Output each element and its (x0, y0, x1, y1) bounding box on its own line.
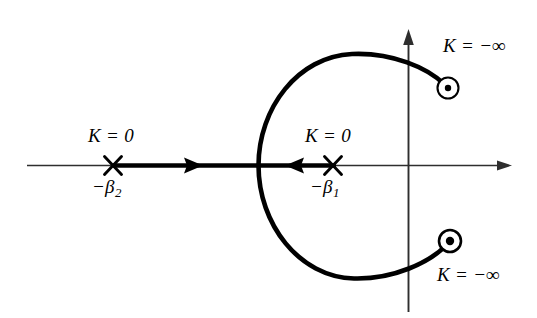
label-k-equals-zero-left: K = 0 (88, 126, 134, 145)
label-pole-beta2-subscript: 2 (115, 185, 122, 200)
root-locus-figure: K = 0 K = 0 −β2 −β1 K = −∞ K = −∞ (0, 0, 537, 318)
zero-marker-lower-icon (439, 230, 461, 252)
label-pole-beta2: −β2 (92, 177, 122, 200)
imaginary-axis-arrowhead-icon (403, 29, 414, 45)
label-pole-beta1: −β1 (310, 177, 340, 200)
label-k-equals-zero-right: K = 0 (305, 126, 351, 145)
label-k-equals-neg-infinity-top: K = −∞ (443, 36, 506, 55)
label-pole-beta2-text: −β (92, 176, 115, 197)
real-axis-arrowhead-icon (497, 160, 512, 170)
zero-marker-upper-icon (438, 78, 459, 99)
locus-arc-upper (259, 54, 445, 166)
label-k-equals-neg-infinity-bottom: K = −∞ (437, 265, 500, 284)
locus-arc-lower (259, 166, 447, 279)
locus-real-axis-segment (113, 158, 336, 174)
label-pole-beta1-subscript: 1 (333, 185, 340, 200)
label-pole-beta1-text: −β (310, 176, 333, 197)
